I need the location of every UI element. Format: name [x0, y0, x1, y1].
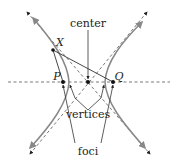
- label-point-q: Q: [114, 70, 123, 83]
- label-vertices: vertices: [65, 108, 111, 121]
- vertex-right-pointer: [101, 85, 104, 98]
- vertex-left-pointer: [70, 85, 75, 98]
- point-x: [51, 48, 55, 52]
- label-foci: foci: [78, 145, 99, 158]
- label-point-x: X: [55, 36, 65, 49]
- label-point-p: P: [52, 70, 61, 83]
- focus-p: [61, 80, 65, 84]
- hyperbola-right-branch: [105, 22, 145, 148]
- center-point: [86, 80, 90, 84]
- label-center: center: [70, 17, 107, 30]
- hyperbola-diagram: center X P Q vertices foci: [0, 0, 174, 164]
- segment-x-q: [53, 50, 113, 82]
